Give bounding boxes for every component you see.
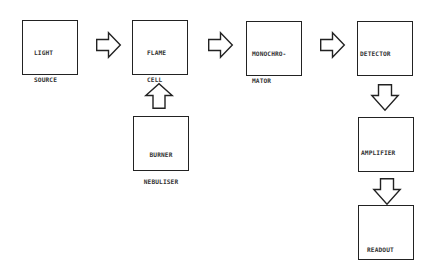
amplifier-label: AMPLIFIER xyxy=(361,130,395,175)
arrow-right-shape xyxy=(97,33,121,57)
light-source-line-2: SOURCE xyxy=(34,75,57,84)
light-source-label: LIGHT SOURCE xyxy=(34,30,57,102)
arrow-light-to-flame xyxy=(96,32,121,58)
burner-nebuliser-box: BURNER NEBULISER xyxy=(133,116,189,171)
detector-label: DETECTOR xyxy=(360,31,391,76)
detector-line-1: DETECTOR xyxy=(360,49,391,58)
light-source-box: LIGHT SOURCE xyxy=(22,20,78,75)
arrow-right-shape xyxy=(209,33,233,57)
monochromator-box: MONOCHRO- MATOR xyxy=(246,21,302,76)
burner-nebuliser-label: BURNER NEBULISER xyxy=(138,132,184,204)
arrow-flame-to-mono xyxy=(208,32,233,58)
burner-nebuliser-line-1: BURNER xyxy=(138,150,184,159)
detector-box: DETECTOR xyxy=(357,21,413,76)
monochromator-line-1: MONOCHRO- xyxy=(252,49,286,58)
light-source-line-1: LIGHT xyxy=(34,48,57,57)
flame-cell-box: FLAME CELL xyxy=(132,20,188,75)
amplifier-line-1: AMPLIFIER xyxy=(361,148,395,157)
burner-nebuliser-line-2: NEBULISER xyxy=(138,177,184,186)
arrow-down-shape xyxy=(372,85,398,111)
monochromator-label: MONOCHRO- MATOR xyxy=(252,31,286,103)
readout-line-1: READOUT xyxy=(367,245,394,254)
readout-box: READOUT xyxy=(358,205,414,260)
arrow-detector-to-amplifier xyxy=(371,84,399,111)
readout-label: READOUT xyxy=(367,227,394,272)
arrow-right-shape xyxy=(321,33,345,57)
arrow-mono-to-detector xyxy=(320,32,345,58)
arrow-up-shape xyxy=(146,84,172,109)
amplifier-box: AMPLIFIER xyxy=(358,117,414,172)
arrow-burner-to-flame xyxy=(145,83,173,109)
monochromator-line-2: MATOR xyxy=(252,76,286,85)
arrow-down-shape xyxy=(374,179,400,205)
arrow-amplifier-to-readout xyxy=(373,178,401,205)
flame-cell-line-1: FLAME xyxy=(147,48,166,57)
